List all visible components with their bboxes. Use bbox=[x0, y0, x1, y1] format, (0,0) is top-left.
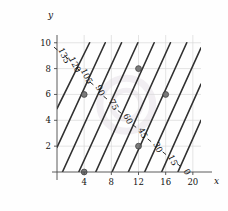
contour-label: 15 bbox=[166, 153, 180, 167]
contour-label: 60 bbox=[121, 112, 135, 126]
y-axis-label: y bbox=[48, 10, 53, 20]
x-tick-label: 12 bbox=[130, 177, 148, 187]
y-tick-label: 8 bbox=[35, 64, 51, 74]
contour-label: 0 bbox=[182, 167, 193, 176]
x-tick-label: 20 bbox=[184, 177, 202, 187]
y-tick-label: 6 bbox=[35, 89, 51, 99]
x-tick-label: 16 bbox=[157, 177, 175, 187]
contour-plot-figure: 1351201059075604530150 y x 4812162024681… bbox=[0, 0, 228, 211]
x-tick-label: 4 bbox=[75, 177, 93, 187]
contour-label: 75 bbox=[107, 98, 121, 112]
y-tick-label: 4 bbox=[35, 115, 51, 125]
x-tick-label: 8 bbox=[102, 177, 120, 187]
y-tick-label: 10 bbox=[35, 38, 51, 48]
grid-lines bbox=[57, 35, 201, 172]
x-axis-label: x bbox=[214, 176, 219, 186]
y-tick-label: 2 bbox=[35, 141, 51, 151]
